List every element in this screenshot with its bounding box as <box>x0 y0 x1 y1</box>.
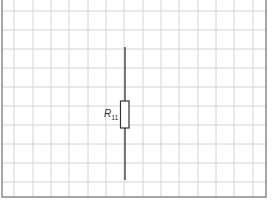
resistor-label: R11 <box>104 108 119 121</box>
resistor-r11 <box>121 47 130 180</box>
resistor-symbol-icon <box>121 101 130 128</box>
circuit-diagram <box>0 0 274 200</box>
resistor-label-subscript: 11 <box>111 114 118 121</box>
grid-lines <box>2 0 266 197</box>
